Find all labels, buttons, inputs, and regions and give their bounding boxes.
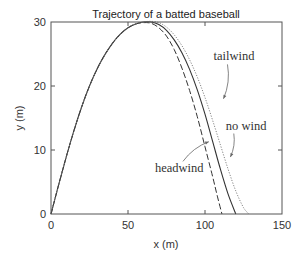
x-tick-label: 100 (196, 219, 214, 231)
trajectory-chart: Trajectory of a batted baseball tailwind… (0, 0, 305, 256)
series-headwind (51, 23, 222, 214)
annotation-headwind: headwind (155, 161, 204, 175)
x-tick-label: 150 (273, 219, 291, 231)
annotations: tailwindno windheadwind (155, 49, 267, 175)
arrowhead-icon (205, 142, 209, 145)
y-axis-label: y (m) (13, 105, 25, 130)
chart-title: Trajectory of a batted baseball (92, 8, 240, 20)
y-tick-label: 0 (40, 208, 46, 220)
x-tick-label: 50 (122, 219, 134, 231)
annotation-arrow (223, 64, 228, 98)
y-tick-label: 30 (34, 16, 46, 28)
y-tick-label: 20 (34, 80, 46, 92)
annotation-no-wind: no wind (226, 119, 267, 133)
x-tick-label: 0 (48, 219, 54, 231)
series-no-wind (51, 22, 236, 214)
x-axis-label: x (m) (153, 238, 178, 250)
annotation-tailwind: tailwind (213, 49, 255, 63)
annotation-arrow (183, 142, 209, 162)
y-tick-label: 10 (34, 144, 46, 156)
